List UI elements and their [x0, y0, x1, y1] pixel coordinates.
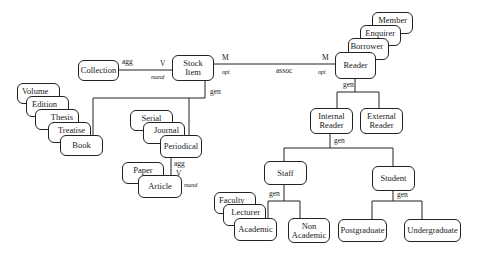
- entity-reader[interactable]: Reader: [335, 52, 376, 79]
- label-agg: agg: [122, 58, 133, 66]
- entity-periodical[interactable]: Periodical: [160, 135, 202, 158]
- label-opt-left: opt: [222, 68, 230, 76]
- label-gen-stock: gen: [210, 88, 221, 96]
- label-cardinality-m-left: M: [222, 54, 229, 62]
- entity-non-academic[interactable]: Non Academic: [288, 218, 330, 243]
- label-gen-staff: gen: [269, 190, 280, 198]
- label-gen-student: gen: [397, 191, 408, 199]
- entity-stock-item[interactable]: Stock Item: [172, 55, 214, 81]
- entity-academic[interactable]: Academic: [234, 218, 277, 241]
- label-cardinality-v: V: [160, 60, 165, 68]
- entity-staff[interactable]: Staff: [264, 161, 307, 185]
- entity-external-reader[interactable]: External Reader: [360, 108, 403, 134]
- label-mand-periodical: mand: [184, 181, 197, 189]
- label-mand: mand: [151, 73, 164, 81]
- label-agg-periodical: agg: [174, 160, 185, 168]
- entity-postgraduate[interactable]: Postgraduate: [338, 219, 387, 242]
- entity-book[interactable]: Book: [60, 135, 103, 156]
- label-cardinality-v-periodical: V: [176, 170, 181, 178]
- label-gen-reader: gen: [343, 81, 354, 89]
- entity-article[interactable]: Article: [138, 175, 182, 198]
- label-gen-internal: gen: [334, 137, 345, 145]
- entity-undergraduate[interactable]: Undergraduate: [404, 219, 461, 242]
- label-opt-right: opt: [318, 68, 326, 76]
- entity-internal-reader[interactable]: Internal Reader: [310, 108, 353, 134]
- label-assoc: assoc: [276, 67, 292, 75]
- entity-student[interactable]: Student: [372, 166, 415, 191]
- entity-collection[interactable]: Collection: [78, 60, 119, 81]
- label-cardinality-m-right: M: [322, 54, 329, 62]
- er-diagram: Collection Stock Item Member Enquirer Bo…: [0, 0, 481, 254]
